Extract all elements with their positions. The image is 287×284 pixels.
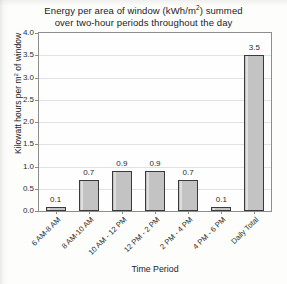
gridline <box>39 144 271 145</box>
bar-value-label: 0.1 <box>207 195 235 204</box>
bar-value-label: 0.9 <box>141 159 169 168</box>
plot-area: 0.10.70.90.90.70.13.5 <box>38 32 272 212</box>
bar <box>145 171 165 211</box>
bar <box>112 171 132 211</box>
bar-value-label: 3.5 <box>240 43 268 52</box>
x-axis-tick-mark <box>188 211 189 214</box>
y-axis-title-superscript: 2 <box>13 73 19 76</box>
bar-value-label: 0.7 <box>174 168 202 177</box>
chart-title-line-1-end: ) summed <box>200 5 243 16</box>
x-axis-title: Time Period <box>38 264 272 274</box>
x-axis-tick-mark <box>56 211 57 214</box>
chart-title-line-2: over two-hour periods throughout the day <box>55 17 233 28</box>
bar-value-label: 0.7 <box>75 168 103 177</box>
gridline <box>39 55 271 56</box>
x-axis-tick-mark <box>221 211 222 214</box>
bar-value-label: 0.1 <box>42 195 70 204</box>
gridline <box>39 122 271 123</box>
x-axis-tick-mark <box>254 211 255 214</box>
bar-value-label: 0.9 <box>108 159 136 168</box>
y-axis-tick-label: 0.5 <box>4 184 34 193</box>
y-axis-tick-label: 0.0 <box>4 206 34 215</box>
chart-title-line-1: Energy per area of window (kWh/m <box>44 5 196 16</box>
chart-title: Energy per area of window (kWh/m2) summe… <box>14 2 273 29</box>
x-axis-tick-mark <box>155 211 156 214</box>
y-axis-title: Kilowatt hours per m2 of window <box>13 8 24 178</box>
bar-chart-figure: Energy per area of window (kWh/m2) summe… <box>0 0 287 284</box>
bar <box>79 180 99 211</box>
x-axis-tick-mark <box>122 211 123 214</box>
x-axis-tick-mark <box>89 211 90 214</box>
bar <box>244 55 264 211</box>
bar <box>178 180 198 211</box>
gridline <box>39 78 271 79</box>
gridline <box>39 100 271 101</box>
y-axis-title-pre: Kilowatt hours per m <box>13 76 23 153</box>
y-axis-title-post: of window <box>13 33 23 73</box>
